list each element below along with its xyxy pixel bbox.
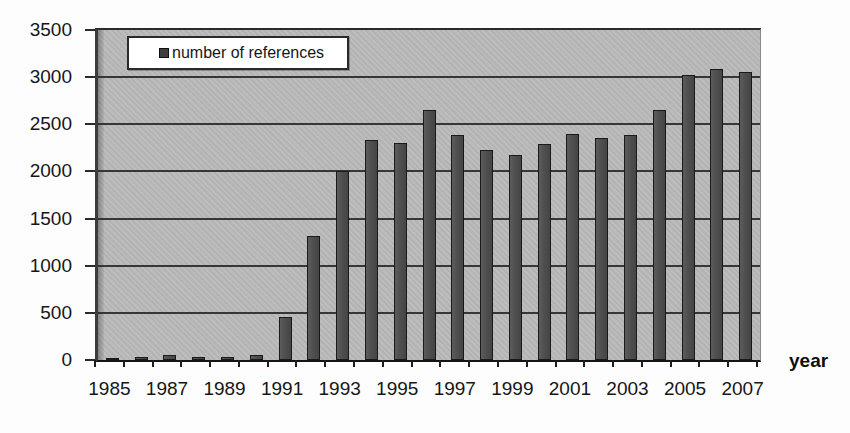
bar-1987 bbox=[163, 355, 176, 360]
bar-1991 bbox=[279, 317, 292, 360]
x-tick-label-1993: 1993 bbox=[310, 377, 370, 401]
bar-1995 bbox=[394, 143, 407, 360]
bar-1998 bbox=[480, 150, 493, 360]
y-tick-label-3500: 3500 bbox=[8, 19, 72, 41]
x-tick-mark bbox=[324, 360, 326, 367]
x-tick-mark bbox=[612, 360, 614, 367]
bar-2002 bbox=[595, 138, 608, 361]
y-tick-mark bbox=[85, 170, 95, 172]
bar-2007 bbox=[739, 72, 752, 361]
x-tick-label-2003: 2003 bbox=[597, 377, 657, 401]
x-tick-mark bbox=[180, 360, 182, 367]
bar-1992 bbox=[307, 236, 320, 360]
x-tick-mark bbox=[411, 360, 413, 367]
bar-1999 bbox=[509, 155, 522, 360]
x-tick-mark bbox=[583, 360, 585, 367]
x-tick-mark bbox=[238, 360, 240, 367]
x-tick-label-1987: 1987 bbox=[137, 377, 197, 401]
x-tick-mark bbox=[152, 360, 154, 367]
bar-1993 bbox=[336, 171, 349, 360]
gridline-3000 bbox=[98, 76, 760, 78]
x-tick-mark bbox=[123, 360, 125, 367]
y-tick-label-1000: 1000 bbox=[8, 255, 72, 277]
x-tick-mark bbox=[468, 360, 470, 367]
bar-2003 bbox=[624, 135, 637, 360]
x-tick-mark bbox=[727, 360, 729, 367]
x-tick-label-2005: 2005 bbox=[655, 377, 715, 401]
y-tick-mark bbox=[85, 218, 95, 220]
y-tick-label-500: 500 bbox=[8, 302, 72, 324]
bar-1989 bbox=[221, 357, 234, 360]
bar-1994 bbox=[365, 140, 378, 360]
legend-label: number of references bbox=[172, 44, 324, 62]
bar-1988 bbox=[192, 357, 205, 360]
bar-2006 bbox=[710, 69, 723, 360]
bar-1985 bbox=[106, 358, 119, 360]
bar-1997 bbox=[451, 135, 464, 360]
legend: number of references bbox=[127, 36, 349, 70]
x-tick-label-1989: 1989 bbox=[195, 377, 255, 401]
x-tick-label-2001: 2001 bbox=[540, 377, 600, 401]
bar-2005 bbox=[682, 75, 695, 360]
x-tick-mark bbox=[526, 360, 528, 367]
y-tick-mark bbox=[85, 76, 95, 78]
x-tick-mark bbox=[641, 360, 643, 367]
x-tick-mark bbox=[698, 360, 700, 367]
x-tick-label-1985: 1985 bbox=[79, 377, 139, 401]
bar-1986 bbox=[135, 357, 148, 360]
x-tick-label-2007: 2007 bbox=[713, 377, 773, 401]
bar-2004 bbox=[653, 110, 666, 360]
y-tick-label-2000: 2000 bbox=[8, 160, 72, 182]
y-tick-mark bbox=[85, 265, 95, 267]
y-tick-mark bbox=[85, 312, 95, 314]
plot-area bbox=[95, 28, 761, 362]
x-tick-mark bbox=[295, 360, 297, 367]
y-tick-label-1500: 1500 bbox=[8, 208, 72, 230]
x-tick-mark bbox=[555, 360, 557, 367]
x-tick-mark bbox=[382, 360, 384, 367]
x-tick-label-1999: 1999 bbox=[482, 377, 542, 401]
bar-2001 bbox=[566, 134, 579, 360]
y-tick-label-3000: 3000 bbox=[8, 66, 72, 88]
x-tick-mark bbox=[670, 360, 672, 367]
x-tick-mark bbox=[209, 360, 211, 367]
x-tick-mark bbox=[756, 360, 758, 367]
bar-chart-figure: 0500100015002000250030003500 number of r… bbox=[0, 0, 850, 433]
x-tick-label-1995: 1995 bbox=[367, 377, 427, 401]
x-axis-title: year bbox=[789, 350, 828, 372]
y-tick-mark bbox=[85, 29, 95, 31]
x-tick-mark bbox=[439, 360, 441, 367]
x-tick-label-1991: 1991 bbox=[252, 377, 312, 401]
x-tick-mark bbox=[267, 360, 269, 367]
y-tick-label-2500: 2500 bbox=[8, 113, 72, 135]
x-tick-mark bbox=[353, 360, 355, 367]
x-tick-mark bbox=[94, 360, 96, 367]
bar-2000 bbox=[538, 144, 551, 360]
x-tick-mark bbox=[497, 360, 499, 367]
bar-1996 bbox=[423, 110, 436, 360]
x-tick-label-1997: 1997 bbox=[425, 377, 485, 401]
y-tick-mark bbox=[85, 123, 95, 125]
y-tick-label-0: 0 bbox=[8, 349, 72, 371]
bar-1990 bbox=[250, 355, 263, 360]
legend-marker-square-icon bbox=[159, 48, 169, 58]
